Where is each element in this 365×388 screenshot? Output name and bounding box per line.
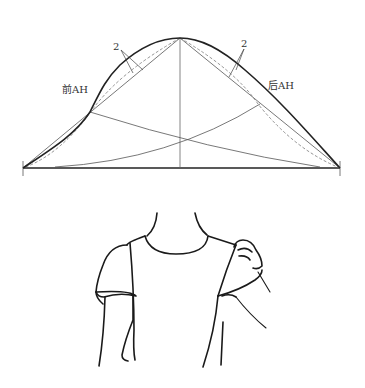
lower-hand (222, 295, 236, 297)
sleeve-cap-draft: 2 2 前AH 后AH (23, 38, 340, 176)
back-bias-line (180, 38, 340, 168)
forearm-lower (236, 297, 266, 328)
right-inner-fold (221, 322, 223, 365)
hand-fingers (234, 240, 262, 269)
left-side-fold (122, 296, 133, 361)
sleeve-cap-curve (23, 38, 340, 168)
back-ease-leader (229, 49, 244, 77)
back-armhole-label: 后AH (268, 80, 294, 91)
neck-right (195, 213, 207, 235)
neckline (145, 236, 208, 254)
right-shoulder (208, 236, 236, 245)
forearm-upper (258, 272, 270, 292)
bodice-fitting-illustration (96, 213, 270, 367)
front-bias-line (23, 38, 180, 168)
back-cross-curve (55, 104, 260, 167)
neck-left (147, 213, 157, 236)
front-armhole-label: 前AH (62, 83, 88, 95)
sleeve-pattern-diagram: 2 2 前AH 后AH (0, 0, 365, 388)
hand-finger-detail-2 (239, 256, 250, 260)
hand-finger-detail (238, 248, 252, 252)
front-ease-label: 2 (113, 41, 119, 52)
front-cross-curve (90, 112, 320, 167)
back-ease-label: 2 (241, 38, 247, 49)
right-sleeve-cap (218, 245, 236, 296)
left-sleeve-cap (96, 245, 127, 292)
left-arm (99, 297, 105, 366)
right-side-seam (203, 296, 218, 367)
left-sleeve-hem (96, 292, 136, 298)
